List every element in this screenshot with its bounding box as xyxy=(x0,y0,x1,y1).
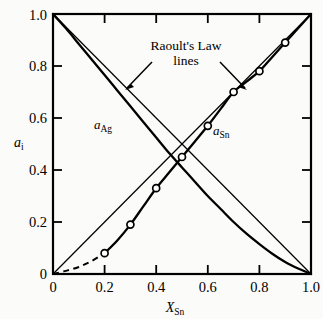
series-label-a-sn: aSn xyxy=(213,123,230,140)
x-axis-title: XSn xyxy=(165,300,185,317)
y-tick-label-0: 0 xyxy=(40,266,47,282)
y-tick-label-0.2: 0.2 xyxy=(29,214,47,230)
data-point-marker xyxy=(256,68,263,75)
y-tick-label-0.4: 0.4 xyxy=(29,162,48,178)
x-axis-title-sub: Sn xyxy=(174,307,184,317)
series-label-a-ag: aAg xyxy=(94,117,112,134)
x-tick-label-0.6: 0.6 xyxy=(199,279,217,295)
a-ag-label-sub: Ag xyxy=(101,124,113,134)
svg-text:aAg: aAg xyxy=(94,117,112,134)
y-axis-title-base: a xyxy=(14,135,21,150)
raoult-annotation-line1: Raoult's Law xyxy=(150,38,221,53)
data-point-marker xyxy=(179,154,186,161)
y-tick-labels: 1.0 0.8 0.6 0.4 0.2 0 xyxy=(29,7,48,282)
x-axis-title-base: X xyxy=(165,300,175,315)
y-axis-title-sub: i xyxy=(21,142,24,152)
y-tick-label-1.0: 1.0 xyxy=(29,7,47,23)
chart-canvas: Raoult's Law lines aAg aSn 1.0 0.8 0.6 0… xyxy=(0,0,323,319)
y-tick-label-0.6: 0.6 xyxy=(29,110,47,126)
y-axis-title: ai xyxy=(14,135,24,152)
data-point-marker xyxy=(101,250,108,257)
x-tick-label-0.2: 0.2 xyxy=(96,279,114,295)
x-tick-label-0: 0 xyxy=(49,279,56,295)
raoult-arrow-left-shaft xyxy=(127,62,152,88)
x-tick-label-1.0: 1.0 xyxy=(302,279,320,295)
svg-text:aSn: aSn xyxy=(213,123,230,140)
x-tick-label-0.4: 0.4 xyxy=(147,279,166,295)
x-tick-labels: 0 0.2 0.4 0.6 0.8 1.0 xyxy=(49,279,320,295)
a-sn-dashed-segment xyxy=(53,253,105,274)
data-point-marker xyxy=(153,185,160,192)
data-point-marker xyxy=(204,122,211,129)
raoult-arrow-right-shaft xyxy=(220,62,245,88)
svg-text:XSn: XSn xyxy=(165,300,185,317)
data-point-marker xyxy=(127,221,134,228)
x-tick-label-0.8: 0.8 xyxy=(250,279,268,295)
activity-vs-composition-chart: Raoult's Law lines aAg aSn 1.0 0.8 0.6 0… xyxy=(0,0,323,319)
curve-a-sn-dashed xyxy=(53,253,105,274)
y-tick-label-0.8: 0.8 xyxy=(29,58,47,74)
svg-text:ai: ai xyxy=(14,135,24,152)
a-sn-label-sub: Sn xyxy=(220,130,230,140)
data-point-marker xyxy=(282,39,289,46)
a-sn-markers xyxy=(101,39,289,257)
raoult-annotation-line2: lines xyxy=(173,53,199,68)
data-point-marker xyxy=(230,89,237,96)
